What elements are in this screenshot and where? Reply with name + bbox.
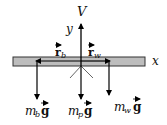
label-r-w: r w (88, 45, 101, 60)
svg-text:b: b (35, 110, 40, 119)
label-x-axis: x (152, 54, 159, 68)
svg-text:g: g (133, 100, 142, 114)
label-mw-g: m w g (114, 99, 142, 115)
svg-text:w: w (124, 106, 131, 115)
label-V: V (77, 4, 88, 19)
svg-text:w: w (94, 51, 101, 60)
support-line-left (70, 66, 81, 78)
label-r-b: r b (55, 45, 66, 60)
support-line-right (81, 66, 93, 78)
svg-text:b: b (61, 51, 66, 60)
svg-text:p: p (78, 110, 83, 119)
free-body-diagram: V y x r b r w m b g m p g m w g (0, 0, 167, 125)
label-mb-g: m b g (25, 103, 50, 119)
svg-text:g: g (41, 104, 50, 118)
label-y-axis: y (65, 22, 73, 36)
label-mp-g: m p g (68, 103, 93, 119)
svg-text:g: g (84, 104, 93, 118)
